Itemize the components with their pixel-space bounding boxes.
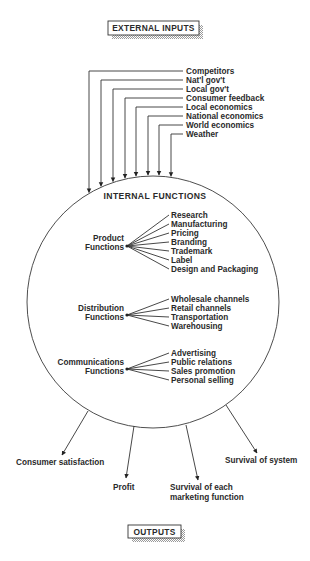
communications-item: Advertising bbox=[171, 349, 216, 358]
fan-origin-dot bbox=[125, 313, 128, 316]
output-item: Consumer satisfaction bbox=[16, 411, 104, 467]
input-label: Local gov't bbox=[186, 85, 229, 94]
connector-line bbox=[127, 299, 169, 315]
output-label: marketing function bbox=[170, 493, 244, 502]
output-arrow bbox=[62, 411, 88, 455]
input-label: Competitors bbox=[186, 67, 235, 76]
connector-line bbox=[127, 353, 169, 369]
product-item: Pricing bbox=[171, 229, 199, 238]
connector-line bbox=[127, 362, 169, 369]
product-item: Manufacturing bbox=[171, 220, 227, 229]
output-label: Consumer satisfaction bbox=[16, 458, 104, 467]
product-item: Trademark bbox=[171, 247, 213, 256]
distribution-item: Wholesale channels bbox=[171, 295, 250, 304]
output-label: Survival of system bbox=[225, 456, 297, 465]
communications-functions-label: Communications bbox=[58, 358, 125, 367]
output-arrow bbox=[126, 426, 134, 478]
input-label: World economics bbox=[186, 121, 255, 130]
communications-functions-group: CommunicationsFunctionsAdvertisingPublic… bbox=[58, 349, 236, 385]
product-functions-label: Functions bbox=[85, 243, 125, 252]
output-arrow bbox=[226, 405, 257, 453]
function-groups: ProductFunctionsResearchManufacturingPri… bbox=[58, 211, 259, 385]
external-inputs-title: EXTERNAL INPUTS bbox=[112, 23, 195, 33]
input-label: Consumer feedback bbox=[186, 94, 265, 103]
outputs-box: OUTPUTS bbox=[128, 525, 185, 542]
distribution-functions-label: Functions bbox=[85, 313, 125, 322]
communications-item: Personal selling bbox=[171, 376, 234, 385]
input-label: Nat'l gov't bbox=[186, 76, 225, 85]
input-arrow bbox=[125, 98, 183, 178]
communications-item: Sales promotion bbox=[171, 367, 235, 376]
input-label: Weather bbox=[186, 130, 219, 139]
product-functions-group: ProductFunctionsResearchManufacturingPri… bbox=[85, 211, 258, 274]
product-item: Branding bbox=[171, 238, 207, 247]
distribution-functions-label: Distribution bbox=[78, 304, 124, 313]
connector-line bbox=[127, 308, 169, 315]
product-item: Design and Packaging bbox=[171, 265, 258, 274]
distribution-functions-group: DistributionFunctionsWholesale channelsR… bbox=[78, 295, 250, 331]
marketing-system-diagram: EXTERNAL INPUTS CompetitorsNat'l gov'tLo… bbox=[0, 0, 310, 561]
output-item: Profit bbox=[113, 426, 135, 492]
input-arrow bbox=[136, 107, 183, 176]
outputs-title: OUTPUTS bbox=[133, 527, 175, 537]
external-inputs-box: EXTERNAL INPUTS bbox=[108, 21, 203, 39]
distribution-item: Warehousing bbox=[171, 322, 223, 331]
fan-origin-dot bbox=[125, 244, 128, 247]
output-arrow bbox=[186, 425, 198, 480]
input-item: Weather bbox=[171, 130, 219, 176]
communications-functions-label: Functions bbox=[85, 367, 125, 376]
output-label: Survival of each bbox=[170, 483, 233, 492]
outputs-list: Consumer satisfactionProfitSurvival of e… bbox=[16, 405, 297, 502]
distribution-item: Retail channels bbox=[171, 304, 232, 313]
input-label: National economics bbox=[186, 112, 264, 121]
input-arrow bbox=[171, 134, 183, 176]
product-functions-label: Product bbox=[93, 234, 124, 243]
distribution-item: Transportation bbox=[171, 313, 228, 322]
external-inputs-list: CompetitorsNat'l gov'tLocal gov'tConsume… bbox=[89, 67, 265, 192]
product-item: Research bbox=[171, 211, 208, 220]
output-label: Profit bbox=[113, 483, 135, 492]
internal-functions-heading: INTERNAL FUNCTIONS bbox=[103, 191, 206, 201]
communications-item: Public relations bbox=[171, 358, 232, 367]
output-item: Survival of system bbox=[225, 405, 297, 465]
connector-line bbox=[127, 215, 169, 246]
product-item: Label bbox=[171, 256, 192, 265]
fan-origin-dot bbox=[125, 367, 128, 370]
input-label: Local economics bbox=[186, 103, 253, 112]
